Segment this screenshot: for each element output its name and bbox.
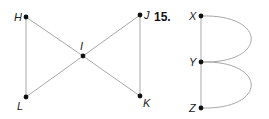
label-Z: Z [188,102,197,114]
label-Y: Y [189,56,197,68]
label-X: X [188,10,197,22]
vertex-H [24,15,29,20]
edge-H-I [26,17,83,56]
edge-I-L [26,56,83,97]
edge-X-Y-curved [201,16,251,62]
vertex-X [199,14,204,19]
vertex-Z [199,106,204,111]
vertex-K [138,94,143,99]
label-K: K [143,97,151,109]
edge-I-K [83,56,140,96]
vertex-J [138,13,143,18]
label-L: L [17,100,23,112]
right-graph-edges [201,16,251,108]
vertex-Y [199,60,204,65]
edge-J-I [83,15,140,56]
edge-Y-Z-curved [201,62,251,108]
diagram-canvas: H J I L K 15. X Y Z [0,0,269,119]
label-J: J [143,9,150,21]
exercise-number: 15. [154,10,171,24]
vertex-L [24,95,29,100]
label-H: H [14,11,22,23]
vertex-I [81,54,86,59]
label-I: I [80,40,83,52]
